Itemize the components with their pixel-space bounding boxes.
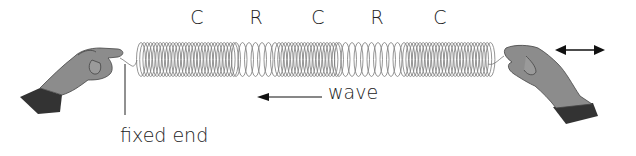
region-label: C [311, 6, 324, 28]
wave-label: wave [328, 81, 378, 103]
left-hand-icon [20, 48, 137, 114]
region-label: C [190, 6, 203, 28]
region-label: C [433, 6, 446, 28]
right-hand-icon [488, 45, 598, 124]
wave-direction-arrow-icon [257, 93, 322, 101]
region-label: R [370, 6, 383, 28]
spring-icon [137, 43, 495, 77]
region-label: R [249, 6, 262, 28]
fixed-end-label: fixed end [120, 124, 208, 146]
double-arrow-icon [555, 45, 605, 55]
